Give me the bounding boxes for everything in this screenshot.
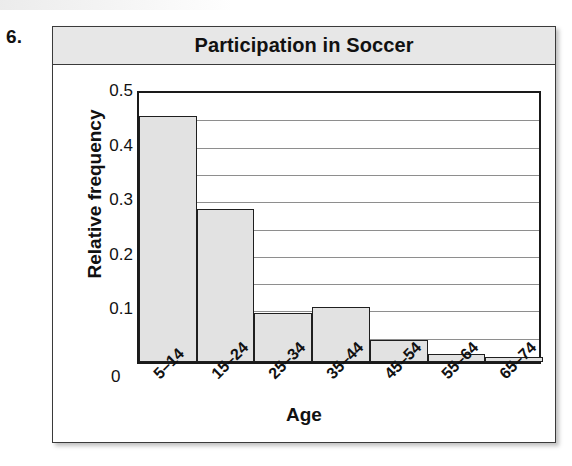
chart-title: Participation in Soccer xyxy=(194,34,413,57)
chart-body: Relative frequency 0.10.20.30.40.5 0 5–1… xyxy=(53,65,555,442)
y-axis-zero-label: 0 xyxy=(111,367,120,387)
y-axis-tick-label: 0.5 xyxy=(109,81,133,101)
y-axis-tick-labels: 0.10.20.30.40.5 xyxy=(87,91,133,364)
bars-layer xyxy=(139,93,539,362)
x-axis-title: Age xyxy=(53,404,555,426)
figure-panel: Participation in Soccer Relative frequen… xyxy=(52,26,556,443)
exercise-number: 6. xyxy=(6,26,22,48)
plot-area xyxy=(137,91,541,364)
bar xyxy=(139,116,197,362)
bar xyxy=(197,209,255,362)
y-axis-tick-label: 0.2 xyxy=(109,245,133,265)
y-axis-tick-label: 0.1 xyxy=(109,299,133,319)
chart-title-bar: Participation in Soccer xyxy=(53,27,555,65)
scan-artifact xyxy=(0,0,230,10)
y-axis-tick-label: 0.3 xyxy=(109,190,133,210)
y-axis-tick-label: 0.4 xyxy=(109,136,133,156)
